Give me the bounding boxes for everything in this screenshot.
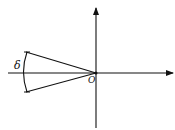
angle-label: δ: [14, 59, 21, 72]
angle-arc: [24, 52, 28, 92]
lower-ray: [26, 73, 96, 92]
upper-ray: [26, 52, 96, 73]
angle-diagram: δ O: [0, 0, 175, 130]
origin-label: O: [88, 75, 96, 85]
